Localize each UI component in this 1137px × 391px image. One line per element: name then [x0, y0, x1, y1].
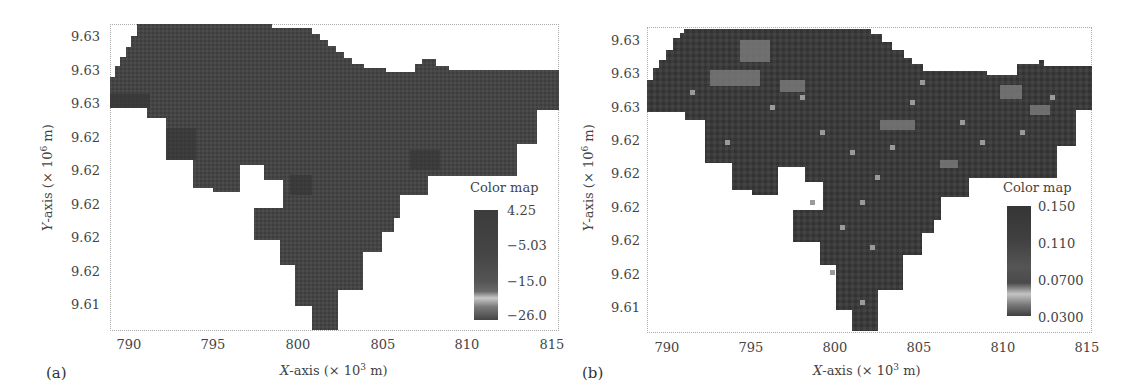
x-tick: 805	[899, 340, 939, 355]
y-tick: 9.61	[600, 300, 640, 315]
y-tick: 9.62	[60, 230, 100, 245]
y-tick: 9.63	[60, 96, 100, 111]
colorbar-tick: 0.0300	[1038, 310, 1084, 325]
x-tick: 795	[193, 337, 233, 352]
panel-label: (a)	[46, 364, 67, 382]
y-tick: 9.62	[600, 133, 640, 148]
heatmap-field	[560, 0, 1128, 391]
colorbar	[1007, 206, 1031, 316]
x-tick: 815	[1067, 340, 1107, 355]
y-tick: 9.63	[60, 29, 100, 44]
colorbar	[474, 210, 498, 320]
y-axis-label: Y-axis (× 106 m)	[580, 121, 596, 231]
y-tick: 9.62	[60, 197, 100, 212]
x-axis-label: X-axis (× 103 m)	[280, 362, 388, 378]
colorbar-tick: 0.0700	[1038, 273, 1084, 288]
heatmap-field	[0, 0, 568, 391]
x-tick: 800	[278, 337, 318, 352]
y-tick: 9.62	[600, 267, 640, 282]
colorbar-tick: 0.110	[1038, 236, 1075, 251]
x-tick: 810	[983, 340, 1023, 355]
x-tick: 800	[815, 340, 855, 355]
y-tick: 9.63	[60, 63, 100, 78]
y-tick: 9.62	[600, 200, 640, 215]
y-tick: 9.63	[600, 33, 640, 48]
y-tick: 9.63	[600, 100, 640, 115]
y-tick: 9.61	[60, 297, 100, 312]
panel-label: (b)	[582, 364, 603, 382]
x-tick: 805	[363, 337, 403, 352]
y-axis-label: Y-axis (× 106 m)	[39, 121, 55, 231]
colorbar-title: Color map	[470, 180, 539, 195]
x-axis-label: X-axis (× 103 m)	[813, 362, 921, 378]
x-tick: 790	[647, 340, 687, 355]
colorbar-tick: 0.150	[1038, 199, 1075, 214]
x-tick: 810	[447, 337, 487, 352]
colorbar-tick: −5.03	[507, 238, 547, 253]
colorbar-tick: −15.0	[507, 274, 547, 289]
panel-b: 9.63 9.63 9.63 9.62 9.62 9.62 9.62 9.62 …	[560, 0, 1128, 391]
x-tick: 790	[109, 337, 149, 352]
y-tick: 9.62	[60, 264, 100, 279]
y-tick: 9.62	[60, 163, 100, 178]
x-tick: 795	[731, 340, 771, 355]
colorbar-title: Color map	[1003, 180, 1072, 195]
y-tick: 9.63	[600, 66, 640, 81]
y-tick: 9.62	[600, 166, 640, 181]
y-tick: 9.62	[600, 233, 640, 248]
colorbar-tick: −26.0	[507, 308, 547, 323]
colorbar-tick: 4.25	[507, 203, 536, 218]
panel-a: 9.63 9.63 9.63 9.62 9.62 9.62 9.62 9.62 …	[0, 0, 568, 391]
y-tick: 9.62	[60, 130, 100, 145]
